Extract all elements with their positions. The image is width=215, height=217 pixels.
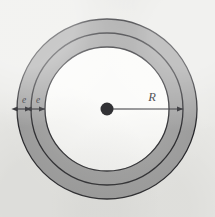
- e-inner-label: e: [36, 95, 40, 105]
- annulus-diagram: e e R: [0, 0, 215, 217]
- center-dot: [101, 103, 114, 116]
- e-outer-label: e: [22, 95, 26, 105]
- figure-canvas: e e R: [0, 0, 215, 217]
- radius-label: R: [147, 90, 156, 104]
